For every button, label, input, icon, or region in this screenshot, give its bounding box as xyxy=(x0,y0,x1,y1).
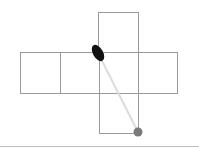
net-cell-center xyxy=(100,53,139,94)
net-cell-left-outer xyxy=(21,53,61,94)
connector-line xyxy=(98,53,138,132)
net-cell-right xyxy=(139,53,178,94)
cube-net-diagram xyxy=(0,0,199,148)
end-marker-icon xyxy=(134,128,143,137)
net-cell-left-inner xyxy=(61,53,100,94)
net-cell-bottom xyxy=(100,94,139,134)
net-cell-top xyxy=(99,13,139,53)
